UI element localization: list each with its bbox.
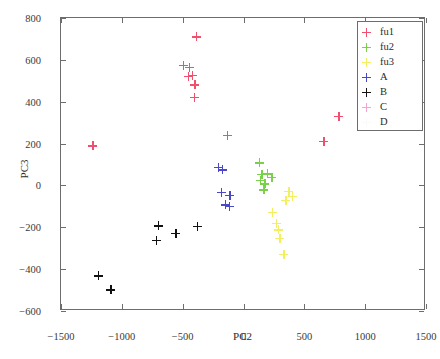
legend-marker-icon bbox=[362, 58, 371, 67]
data-point-fu3 bbox=[288, 192, 297, 201]
legend-item-label: D bbox=[380, 117, 388, 128]
x-tick-top bbox=[304, 18, 305, 23]
data-point-fu3 bbox=[272, 219, 281, 228]
data-point-B bbox=[171, 229, 180, 238]
data-point-B bbox=[94, 271, 103, 280]
y-tick bbox=[61, 144, 66, 145]
legend-marker-icon bbox=[362, 73, 371, 82]
data-point-fu3 bbox=[275, 234, 284, 243]
legend-marker-icon bbox=[362, 43, 371, 52]
y-tick bbox=[61, 311, 66, 312]
y-tick-label: −200 bbox=[19, 222, 41, 233]
y-tick-label: −600 bbox=[19, 306, 41, 317]
legend: fu1fu2fu3ABCD bbox=[357, 21, 423, 131]
data-point-B bbox=[106, 285, 115, 294]
scatter-plot-figure: −1500−1000−500050010001500−600−400−20002… bbox=[0, 0, 440, 359]
data-point-A bbox=[225, 191, 234, 200]
data-point-A bbox=[225, 202, 234, 211]
legend-item-B: B bbox=[358, 85, 422, 100]
x-tick bbox=[304, 304, 305, 309]
y-tick bbox=[61, 185, 66, 186]
data-point-fu2 bbox=[255, 158, 264, 167]
y-tick-right bbox=[419, 18, 424, 19]
data-point-A bbox=[217, 188, 226, 197]
legend-item-label: fu2 bbox=[380, 42, 394, 53]
y-tick-right bbox=[419, 311, 424, 312]
legend-item-label: B bbox=[380, 87, 387, 98]
data-point-fu1 bbox=[179, 61, 188, 70]
legend-item-fu3: fu3 bbox=[358, 55, 422, 70]
y-tick-right bbox=[419, 227, 424, 228]
legend-item-D: D bbox=[358, 115, 422, 130]
data-point-fu2 bbox=[260, 179, 269, 188]
y-tick-right bbox=[419, 185, 424, 186]
legend-marker-icon bbox=[362, 118, 371, 127]
legend-item-fu2: fu2 bbox=[358, 40, 422, 55]
data-point-fu3 bbox=[284, 187, 293, 196]
data-point-A bbox=[221, 200, 230, 209]
x-tick-top bbox=[183, 18, 184, 23]
data-point-fu2 bbox=[257, 170, 266, 179]
y-tick-right bbox=[419, 144, 424, 145]
data-point-fu3 bbox=[279, 250, 288, 259]
data-point-fu1 bbox=[334, 112, 343, 121]
legend-item-fu1: fu1 bbox=[358, 25, 422, 40]
x-tick bbox=[122, 304, 123, 309]
data-point-fu1 bbox=[223, 131, 232, 140]
data-point-fu1 bbox=[184, 72, 193, 81]
legend-item-label: C bbox=[380, 102, 387, 113]
legend-item-C: C bbox=[358, 100, 422, 115]
data-point-fu2 bbox=[256, 176, 265, 185]
data-point-fu1 bbox=[190, 93, 199, 102]
data-point-fu1 bbox=[192, 32, 201, 41]
data-point-fu2 bbox=[267, 173, 276, 182]
data-point-B bbox=[193, 222, 202, 231]
data-point-B bbox=[152, 236, 161, 245]
legend-marker-icon bbox=[362, 28, 371, 37]
legend-item-label: fu3 bbox=[380, 57, 394, 68]
data-point-A bbox=[218, 165, 227, 174]
data-point-fu1 bbox=[319, 137, 328, 146]
data-point-fu2 bbox=[263, 169, 272, 178]
data-point-fu2 bbox=[259, 185, 268, 194]
y-tick-label: −400 bbox=[19, 264, 41, 275]
y-tick-right bbox=[419, 269, 424, 270]
data-point-fu3 bbox=[281, 196, 290, 205]
y-tick-label: 600 bbox=[25, 54, 41, 65]
y-tick-label: 800 bbox=[25, 13, 41, 24]
legend-marker-icon bbox=[362, 103, 371, 112]
x-tick-top bbox=[426, 18, 427, 23]
legend-item-label: A bbox=[380, 72, 388, 83]
data-point-fu3 bbox=[268, 208, 277, 217]
x-tick-top bbox=[122, 18, 123, 23]
legend-item-A: A bbox=[358, 70, 422, 85]
x-tick bbox=[244, 304, 245, 309]
y-tick bbox=[61, 227, 66, 228]
legend-item-label: fu1 bbox=[380, 27, 394, 38]
data-point-fu1 bbox=[185, 63, 194, 72]
x-axis-label: PC2 bbox=[0, 330, 440, 342]
y-tick-label: 0 bbox=[36, 180, 41, 191]
legend-marker-icon bbox=[362, 88, 371, 97]
x-tick bbox=[183, 304, 184, 309]
data-point-fu1 bbox=[188, 71, 197, 80]
data-point-fu1 bbox=[190, 80, 199, 89]
data-point-B bbox=[154, 221, 163, 230]
y-tick bbox=[61, 18, 66, 19]
y-axis-label: PC3 bbox=[18, 139, 30, 199]
y-tick-label: 400 bbox=[25, 96, 41, 107]
data-point-fu1 bbox=[88, 141, 97, 150]
data-point-A bbox=[214, 163, 223, 172]
x-tick-top bbox=[244, 18, 245, 23]
x-tick bbox=[365, 304, 366, 309]
y-tick bbox=[61, 269, 66, 270]
y-tick bbox=[61, 60, 66, 61]
data-point-fu3 bbox=[274, 225, 283, 234]
y-tick bbox=[61, 102, 66, 103]
x-tick bbox=[61, 304, 62, 309]
x-tick bbox=[426, 304, 427, 309]
